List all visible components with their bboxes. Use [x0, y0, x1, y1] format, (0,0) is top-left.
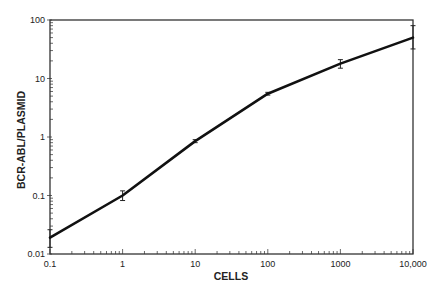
x-tick-label: 0.1 [44, 259, 57, 269]
x-tick-label: 100 [260, 259, 275, 269]
error-bars [48, 26, 416, 248]
y-tick-label: 10 [35, 74, 45, 84]
x-tick-label: 1 [120, 259, 125, 269]
y-tick-label: 0.01 [27, 249, 45, 259]
plot-frame [50, 20, 413, 254]
y-tick-labels: 0.010.1110100 [27, 15, 45, 259]
y-axis-title: BCR-ABL/PLASMID [15, 91, 27, 189]
x-tick-label: 10 [190, 259, 200, 269]
x-tick-labels: 0.1110100100010,000 [44, 259, 427, 269]
log-log-line-chart: 0.1110100100010,000 0.010.1110100 CELLS … [0, 0, 439, 292]
x-axis-title: CELLS [214, 270, 248, 282]
x-tick-label: 1000 [330, 259, 350, 269]
y-tick-label: 100 [30, 15, 45, 25]
y-tick-label: 0.1 [32, 191, 45, 201]
x-tick-label: 10,000 [399, 259, 427, 269]
data-line [50, 38, 413, 238]
axis-ticks [47, 20, 413, 254]
y-tick-label: 1 [40, 132, 45, 142]
